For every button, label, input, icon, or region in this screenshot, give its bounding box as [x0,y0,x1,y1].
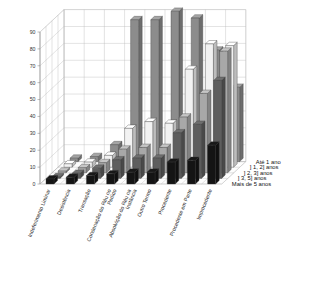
bar-front-face [86,176,94,184]
y-axis-tick-label: 40 [30,113,36,119]
y-axis: 0102030405060708090 [30,29,40,187]
x-axis-category-label: Indeferimento Liminar [27,188,52,238]
bar [107,170,119,184]
bar [187,157,199,184]
bar [127,169,139,184]
bar [147,169,159,184]
bar-side-face [141,155,145,179]
bar-side-face [121,156,125,178]
bar-front-face [127,172,135,184]
bar [86,172,98,184]
bar-front-face [208,145,216,184]
bar-front-face [167,162,175,184]
bar-side-face [228,48,232,173]
bar-front-face [64,164,72,167]
bar-front-face [187,160,195,184]
bar-side-face [147,144,151,173]
y-axis-tick-label: 90 [30,29,36,35]
y-axis-tick-label: 50 [30,96,36,102]
bar-side-face [159,16,163,161]
bar-side-face [175,159,179,184]
bar-side-face [195,157,199,184]
chart-container: 0102030405060708090Indeferimento Liminar… [0,0,321,290]
x-axis-category-label: Transação [77,188,92,213]
y-axis-tick-label: 20 [30,147,36,153]
x-axis-category-label: Outro Termo [136,188,153,218]
y-axis-tick-label: 60 [30,80,36,86]
bar-side-face [216,142,220,184]
bar-side-face [161,155,165,179]
legend-item-label: Mais de 5 anos [232,181,271,187]
bar-front-face [107,174,115,184]
bar [167,159,179,184]
bar-side-face [139,16,143,161]
bar-front-face [147,172,155,184]
y-axis-tick-label: 80 [30,46,36,52]
y-axis-tick-label: 70 [30,63,36,69]
bar [66,174,78,184]
bar-side-face [201,121,205,178]
bar-front-face [66,177,74,184]
x-axis-category-label: Desistência [56,188,72,216]
bar-side-face [234,42,238,167]
bar-chart-3d: 0102030405060708090Indeferimento Liminar… [0,0,321,290]
bar-side-face [240,84,244,162]
bar-side-face [222,77,226,178]
bar-front-face [58,171,66,173]
bar-front-face [46,179,54,184]
bar [208,142,220,184]
y-axis-tick-label: 0 [33,181,36,187]
x-axis-category-label: Improcedente [195,188,213,220]
bar-side-face [127,146,131,173]
x-axis-category-label: Procedente [157,188,173,215]
y-axis-tick-label: 10 [30,164,36,170]
y-axis-tick-label: 30 [30,130,36,136]
x-axis-category-label: Procedente em Parte [168,188,192,237]
bar-side-face [181,129,185,178]
x-axis-labels: Indeferimento LiminarDesistênciaTransaçã… [27,188,213,242]
